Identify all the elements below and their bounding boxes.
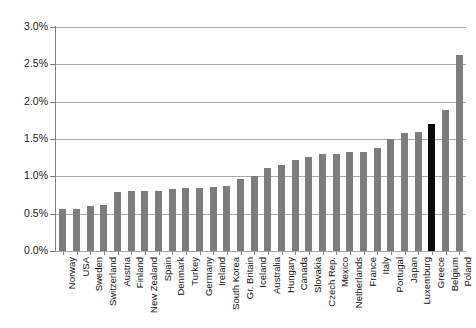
y-axis-tick-mark xyxy=(50,176,55,177)
y-axis-tick-mark xyxy=(50,27,55,28)
x-axis-tick-mark xyxy=(391,251,392,255)
bar-greece xyxy=(428,124,435,251)
y-axis-tick-label: 0.5% xyxy=(4,208,48,219)
bar-new-zealand xyxy=(141,191,148,251)
y-axis-tick-label: 1.0% xyxy=(4,170,48,181)
x-axis-tick-label: Italy xyxy=(381,257,391,274)
x-axis-tick-label: Mexico xyxy=(340,257,350,287)
x-axis-tick-label: Ireland xyxy=(217,257,227,286)
gridline xyxy=(56,27,466,28)
x-axis-tick-mark xyxy=(364,251,365,255)
bar-gr-britain xyxy=(237,179,244,251)
x-axis-tick-mark xyxy=(227,251,228,255)
x-axis-tick-label: Netherlands xyxy=(354,257,364,308)
x-axis-tick-label: Portugal xyxy=(395,257,405,292)
x-axis-tick-mark xyxy=(90,251,91,255)
x-axis-tick-label: South Korea xyxy=(231,257,241,310)
x-axis-tick-label: Gr. Britain xyxy=(245,257,255,299)
bar-south-korea xyxy=(223,186,230,251)
x-axis-tick-mark xyxy=(241,251,242,255)
x-axis-tick-mark xyxy=(432,251,433,255)
x-axis-tick-label: Austria xyxy=(122,257,132,287)
bar-ireland xyxy=(210,187,217,251)
x-axis-tick-mark xyxy=(282,251,283,255)
gridline xyxy=(56,102,466,103)
x-axis-tick-label: Greece xyxy=(436,257,446,288)
gridline xyxy=(56,64,466,65)
bar-hungary xyxy=(278,165,285,251)
x-axis-tick-mark xyxy=(405,251,406,255)
bar-turkey xyxy=(182,188,189,251)
x-axis-tick-mark xyxy=(200,251,201,255)
x-axis-tick-mark xyxy=(159,251,160,255)
x-axis-tick-label: Hungary xyxy=(286,257,296,293)
x-axis-tick-label: Germany xyxy=(204,257,214,296)
x-axis-tick-mark xyxy=(213,251,214,255)
x-axis-tick-mark xyxy=(77,251,78,255)
x-axis-tick-label: Denmark xyxy=(176,257,186,296)
bar-poland xyxy=(456,55,463,251)
x-axis-tick-label: Turkey xyxy=(190,257,200,286)
x-axis-tick-label: Norway xyxy=(67,257,77,289)
bar-norway xyxy=(59,209,66,251)
y-axis-labels: 0.0%0.5%1.0%1.5%2.0%2.5%3.0% xyxy=(0,0,48,328)
x-axis-tick-label: Switzerland xyxy=(108,257,118,306)
bar-france xyxy=(360,152,367,251)
x-axis-tick-label: Luxemburg xyxy=(422,257,432,305)
bar-japan xyxy=(401,133,408,251)
y-axis-tick-label: 0.0% xyxy=(4,245,48,256)
x-axis-tick-mark xyxy=(131,251,132,255)
x-axis-tick-mark xyxy=(268,251,269,255)
x-axis-tick-label: Japan xyxy=(409,257,419,283)
x-axis-tick-label: USA xyxy=(81,257,91,277)
x-axis-tick-mark xyxy=(186,251,187,255)
bar-austria xyxy=(114,192,121,251)
bar-australia xyxy=(264,168,271,251)
bar-chart: 0.0%0.5%1.0%1.5%2.0%2.5%3.0% NorwayUSASw… xyxy=(0,0,476,328)
bar-italy xyxy=(374,148,381,251)
x-axis-tick-label: Sweden xyxy=(94,257,104,291)
y-axis-tick-label: 2.0% xyxy=(4,96,48,107)
bar-mexico xyxy=(333,154,340,251)
x-axis-tick-mark xyxy=(446,251,447,255)
x-axis-tick-label: New Zealand xyxy=(149,257,159,313)
bar-finland xyxy=(128,191,135,251)
bar-luxemburg xyxy=(415,132,422,251)
x-axis-tick-mark xyxy=(172,251,173,255)
x-axis-tick-mark xyxy=(104,251,105,255)
x-axis-tick-mark xyxy=(63,251,64,255)
x-axis-tick-label: Poland xyxy=(463,257,473,287)
y-axis-tick-mark xyxy=(50,102,55,103)
y-axis-tick-mark xyxy=(50,214,55,215)
plot-area xyxy=(56,27,466,251)
x-axis-tick-mark xyxy=(323,251,324,255)
y-axis-tick-mark xyxy=(50,251,55,252)
x-axis-tick-mark xyxy=(118,251,119,255)
x-axis-tick-mark xyxy=(418,251,419,255)
x-axis-tick-label: Finland xyxy=(135,257,145,288)
x-axis-tick-mark xyxy=(377,251,378,255)
bar-netherlands xyxy=(346,152,353,251)
bar-usa xyxy=(73,209,80,251)
y-axis-tick-mark xyxy=(50,139,55,140)
bar-spain xyxy=(155,191,162,251)
bar-slovakia xyxy=(305,157,312,251)
x-axis-tick-label: Iceland xyxy=(258,257,268,288)
bar-canada xyxy=(292,160,299,251)
bar-sweden xyxy=(87,206,94,251)
bar-denmark xyxy=(169,189,176,251)
x-axis-tick-label: Czech Rep. xyxy=(327,257,337,307)
x-axis-tick-mark xyxy=(145,251,146,255)
x-axis-tick-label: Slovakia xyxy=(313,257,323,293)
y-axis-tick-label: 2.5% xyxy=(4,58,48,69)
x-axis-tick-mark xyxy=(350,251,351,255)
x-axis-tick-label: Belgium xyxy=(450,257,460,291)
x-axis-tick-mark xyxy=(309,251,310,255)
bar-switzerland xyxy=(100,205,107,251)
x-axis-tick-mark xyxy=(295,251,296,255)
x-axis-tick-label: Australia xyxy=(272,257,282,294)
x-axis-tick-mark xyxy=(459,251,460,255)
bar-portugal xyxy=(387,139,394,251)
bar-germany xyxy=(196,188,203,251)
x-axis-tick-label: France xyxy=(368,257,378,287)
